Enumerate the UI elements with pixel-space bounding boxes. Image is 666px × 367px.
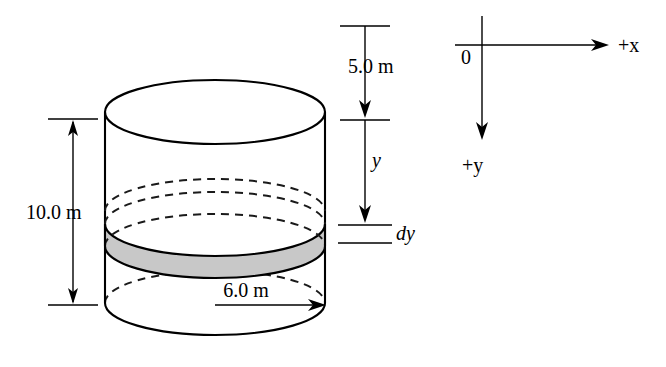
diagram-canvas: 10.0 m 6.0 m 5.0 m y dy — [0, 0, 666, 367]
cylinder-bottom-front-arc — [105, 303, 325, 335]
depth-y-label: y — [370, 149, 381, 172]
height-dimension-group: 10.0 m — [26, 119, 98, 305]
cylinder-top-ellipse — [105, 80, 325, 144]
height-dimension-label: 10.0 m — [26, 201, 82, 223]
radius-dimension-group: 6.0 m — [215, 279, 326, 311]
y-axis-label: +y — [462, 154, 483, 177]
x-axis-label: +x — [618, 34, 639, 56]
depth-top-label: 5.0 m — [348, 55, 394, 77]
disk-upper-guide-back-arc — [105, 179, 325, 211]
coordinate-axes-group: +x +y 0 — [455, 16, 639, 177]
physics-diagram-figure: 10.0 m 6.0 m 5.0 m y dy — [0, 0, 666, 367]
disk-bottom-face-back-arc — [105, 214, 325, 246]
dy-label: dy — [396, 222, 415, 245]
cylinder-group — [105, 80, 325, 335]
origin-label: 0 — [461, 46, 471, 68]
radius-dimension-label: 6.0 m — [223, 279, 269, 301]
disk-top-face-back-arc — [105, 192, 325, 224]
disk-element-group — [105, 179, 325, 278]
depth-dimension-group: 5.0 m y dy — [338, 26, 415, 245]
